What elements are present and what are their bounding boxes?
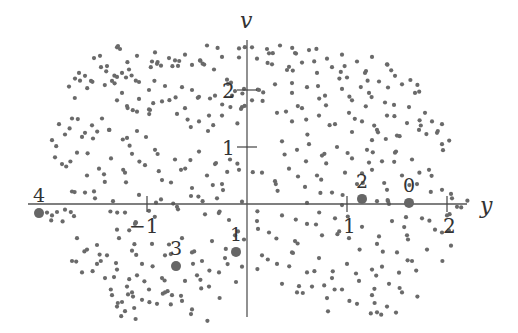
scatter-point [176,207,180,211]
scatter-point [63,132,67,136]
scatter-point [257,88,261,92]
scatter-point [144,135,148,139]
scatter-point [266,61,270,65]
scatter-point [119,314,123,318]
scatter-point [312,269,316,273]
x-axis-label: y [479,193,493,218]
scatter-point [115,305,119,309]
scatter-point [142,279,146,283]
scatter-point [148,108,152,112]
scatter-point [80,135,84,139]
scatter-point [167,56,171,60]
scatter-point [115,98,119,102]
scatter-point [255,219,259,223]
scatter-point [243,104,247,108]
scatter-point [93,196,97,200]
scatter-point [296,174,300,178]
scatter-point [152,79,156,83]
scatter-point [151,101,155,105]
scatter-point [220,182,224,186]
labeled-point-2 [357,194,367,204]
scatter-point [73,77,77,81]
scatter-point [55,210,59,214]
scatter-point [117,236,121,240]
scatter-point [70,116,74,120]
scatter-point [211,183,215,187]
scatter-point [212,67,216,71]
scatter-point [134,317,138,321]
scatter-point [197,119,201,123]
scatter-point [235,121,239,125]
scatter-point [217,270,221,274]
scatter-point [427,168,431,172]
scatter-point [199,286,203,290]
scatter-point [216,46,220,50]
scatter-point [103,276,107,280]
scatter-point [77,71,81,75]
scatter-point [441,148,445,152]
scatter-point [147,300,151,304]
scatter-point [60,162,64,166]
scatter-point [372,124,376,128]
scatter-point [110,293,114,297]
scatter-point [343,64,347,68]
scatter-point [271,51,275,55]
scatter-point [360,225,364,229]
scatter-point [450,196,454,200]
scatter-point [382,181,386,185]
scatter-point [294,218,298,222]
scatter-point [167,98,171,102]
scatter-point [150,242,154,246]
scatter-point [305,85,309,89]
scatter-point [143,163,147,167]
scatter-point [207,114,211,118]
scatter-point [57,122,61,126]
scatter-point [116,301,120,305]
scatter-point [213,94,217,98]
scatter-point [175,112,179,116]
scatter-point [131,108,135,112]
scatter-point [415,182,419,186]
scatter-point [91,269,95,273]
scatter-point [228,105,232,109]
scatter-point [340,53,344,57]
scatter-point [345,75,349,79]
scatter-point [295,290,299,294]
scatter-point [189,125,193,129]
scatter-point [353,117,357,121]
scatter-point [137,97,141,101]
scatter-point [190,186,194,190]
scatter-point [385,114,389,118]
scatter-point [95,243,99,247]
scatter-point [207,285,211,289]
scatter-point [328,123,332,127]
scatter-point [300,106,304,110]
scatter-point [109,287,113,291]
scatter-point [305,133,309,137]
scatter-point [333,216,337,220]
scatter-point [76,117,80,121]
scatter-point [183,53,187,57]
scatter-point [330,276,334,280]
scatter-point [381,250,385,254]
scatter-point [358,248,362,252]
scatter-point [273,82,277,86]
scatter-point [440,142,444,146]
scatter-point [183,167,187,171]
scatter-point [130,249,134,253]
scatter-point [127,67,131,71]
scatter-point [85,173,89,177]
scatter-point [343,171,347,175]
scatter-point [196,96,200,100]
scatter-point [333,287,337,291]
scatter-point [449,192,453,196]
scatter-point [89,79,93,83]
scatter-point [127,277,131,281]
scatter-point [417,128,421,132]
scatter-point [224,247,228,251]
scatter-point [124,75,128,79]
scatter-point [115,228,119,232]
scatter-point [347,299,351,303]
scatter-point [301,291,305,295]
scatter-point [215,196,219,200]
